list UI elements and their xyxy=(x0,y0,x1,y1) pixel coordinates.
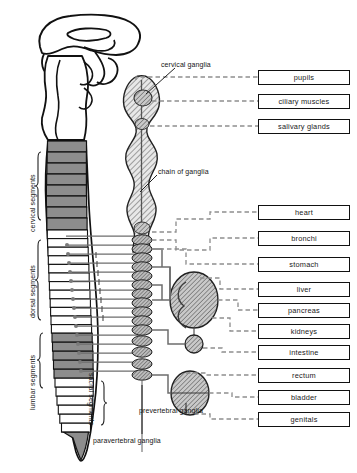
cervical-ganglia-chain xyxy=(123,76,159,252)
label-lumbar-segments: lumbar segments xyxy=(29,355,36,410)
organ-box-bronchi[interactable]: bronchi xyxy=(258,231,350,246)
label-cervical-segments: cervical segments xyxy=(29,174,36,232)
organ-box-bladder[interactable]: bladder xyxy=(258,390,350,405)
mesenteric-ganglion xyxy=(185,328,203,353)
organ-dashed-connectors xyxy=(136,77,258,419)
diagram-canvas: pupils ciliary muscles salivary glands h… xyxy=(0,0,357,473)
organ-box-genitals[interactable]: genitals xyxy=(258,412,350,427)
label-dorsal-segments: dorsal segments xyxy=(29,265,36,318)
organ-box-pupils[interactable]: pupils xyxy=(258,70,350,85)
organ-box-kidneys[interactable]: kidneys xyxy=(258,324,350,339)
organ-box-stomach[interactable]: stomach xyxy=(258,257,350,272)
organ-box-intestine[interactable]: intestine xyxy=(258,345,350,360)
annotation-cervical-ganglia: cervical ganglia xyxy=(161,61,211,68)
cervical-segments-group xyxy=(46,141,87,230)
annotation-prevertebral-ganglia: prevertebral ganglia xyxy=(139,407,203,414)
brainstem-outline xyxy=(42,56,93,140)
label-sacral-segments: sacral segments xyxy=(88,373,95,425)
organ-box-ciliary-muscles[interactable]: ciliary muscles xyxy=(258,94,350,109)
coeliac-ganglion xyxy=(170,272,218,328)
organ-box-pancreas[interactable]: pancreas xyxy=(258,303,350,318)
annotation-chain-of-ganglia: chain of ganglia xyxy=(158,168,209,175)
organ-box-salivary-glands[interactable]: salivary glands xyxy=(258,119,350,134)
organ-box-rectum[interactable]: rectum xyxy=(258,368,350,383)
annotation-paravertebral-ganglia: paravertebral ganglia xyxy=(93,437,161,444)
organ-box-heart[interactable]: heart xyxy=(258,205,350,220)
organ-box-liver[interactable]: liver xyxy=(258,282,350,297)
